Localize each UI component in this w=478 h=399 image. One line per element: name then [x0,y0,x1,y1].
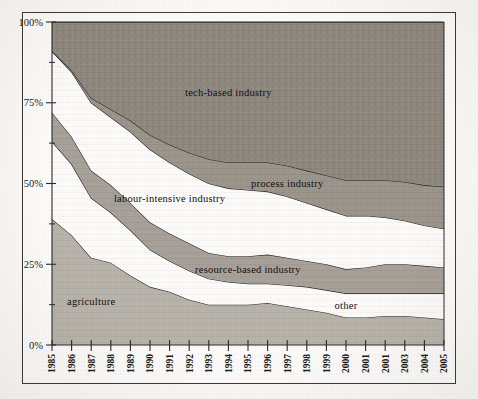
series-label-resource-based-industry: resource-based industry [195,264,301,275]
series-label-tech-based-industry: tech-based industry [185,87,272,98]
x-tick-label: 1985 [47,354,57,373]
y-tick-label: 25% [24,259,44,270]
x-tick-label: 2000 [341,354,351,373]
series-label-other: other [335,300,358,311]
x-tick-label: 1993 [204,354,214,373]
y-tick-label: 50% [24,178,44,189]
series-label-agriculture: agriculture [67,296,115,307]
x-tick-label: 1987 [87,354,97,373]
figure-container: 0%25%50%75%100% 198519861987198819891990… [0,0,478,399]
x-tick-label: 2001 [361,354,371,373]
x-tick-label: 1990 [145,354,155,373]
x-tick-label: 1997 [283,354,293,373]
x-tick-label: 1996 [263,354,273,373]
x-tick-label: 1986 [67,354,77,373]
x-tick-label: 1989 [126,354,136,373]
x-tick-label: 1999 [322,354,332,373]
stacked-area-chart: 0%25%50%75%100% 198519861987198819891990… [0,0,478,399]
x-tick-label: 1995 [243,354,253,373]
series-label-labour-intensive-industry: labour-intensive industry [114,193,226,204]
series-label-process-industry: process industry [251,178,324,189]
y-tick-label: 100% [19,17,44,28]
x-tick-label: 2004 [420,354,430,373]
y-tick-label: 75% [24,97,44,108]
x-tick-label: 2003 [400,354,410,373]
x-tick-label: 2001 [381,354,391,373]
x-tick-label: 2005 [439,354,449,373]
x-tick-label: 1994 [224,354,234,373]
x-tick-label: 1991 [165,354,175,373]
y-axis-ticks: 0%25%50%75%100% [19,17,57,351]
x-tick-label: 1998 [302,354,312,373]
x-tick-label: 1992 [185,354,195,373]
y-tick-label: 0% [29,340,43,351]
x-tick-label: 1988 [106,354,116,373]
